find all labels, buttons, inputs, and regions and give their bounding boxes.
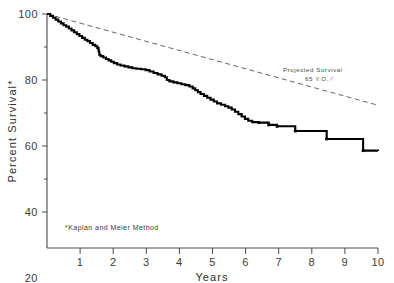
x-tick-label-10: 10 bbox=[371, 256, 384, 268]
x-axis-title: Years bbox=[195, 271, 228, 283]
projected-survival-line bbox=[47, 14, 378, 105]
y-tick-label-20: 20 bbox=[25, 272, 38, 283]
x-tick-label-8: 8 bbox=[308, 256, 315, 268]
y-axis-ticks bbox=[42, 14, 47, 212]
projected-survival-label-line2: 65 Y.O.♂ bbox=[305, 75, 334, 82]
y-tick-label-80: 80 bbox=[25, 74, 38, 86]
censor-mark bbox=[257, 121, 260, 124]
method-footnote: *Kaplan and Meier Method bbox=[65, 224, 159, 232]
x-tick-label-3: 3 bbox=[143, 256, 150, 268]
x-tick-label-7: 7 bbox=[275, 256, 282, 268]
projected-survival-label-line1: Projected Survival bbox=[283, 66, 343, 73]
y-axis-title: Percent Survival* bbox=[6, 79, 18, 182]
y-tick-label-100: 100 bbox=[18, 8, 38, 20]
censor-mark bbox=[294, 130, 297, 133]
y-tick-label-40: 40 bbox=[25, 206, 38, 218]
censor-mark bbox=[362, 149, 365, 152]
x-axis-ticks bbox=[80, 248, 378, 254]
kaplan-meier-curve bbox=[47, 14, 378, 151]
x-tick-label-6: 6 bbox=[242, 256, 249, 268]
x-tick-label-5: 5 bbox=[209, 256, 216, 268]
x-tick-label-2: 2 bbox=[110, 256, 117, 268]
x-axis-tick-labels: 1 2 3 4 5 6 7 8 9 10 bbox=[77, 256, 385, 268]
y-tick-label-60: 60 bbox=[25, 140, 38, 152]
y-axis-tick-labels: 100 80 60 40 20 bbox=[18, 8, 38, 283]
chart-svg: 100 80 60 40 20 1 2 3 4 5 6 7 bbox=[0, 0, 394, 283]
x-tick-label-4: 4 bbox=[176, 256, 183, 268]
x-tick-label-1: 1 bbox=[77, 256, 84, 268]
x-tick-label-9: 9 bbox=[342, 256, 349, 268]
censor-mark bbox=[267, 124, 270, 127]
censor-mark bbox=[325, 138, 328, 141]
survival-chart-figure: 100 80 60 40 20 1 2 3 4 5 6 7 bbox=[0, 0, 394, 283]
projected-survival-annotation: Projected Survival 65 Y.O.♂ bbox=[283, 66, 343, 82]
censor-mark bbox=[276, 125, 279, 128]
